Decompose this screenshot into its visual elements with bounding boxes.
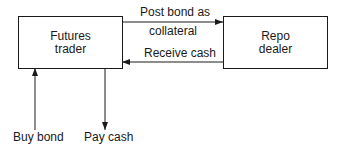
futures-trader-label-line1: Futures [50,30,91,43]
pay-cash-label: Pay cash [84,131,133,144]
repo-dealer-label-line1: Repo [261,30,290,43]
futures-trader-label-line2: trader [55,43,86,56]
buy-bond-label: Buy bond [13,131,64,144]
post-bond-label-line1: Post bond as [140,6,210,19]
repo-dealer-node: Repo dealer [223,16,328,69]
futures-trader-node: Futures trader [18,16,123,69]
post-bond-label-line2: collateral [149,25,197,38]
receive-cash-label: Receive cash [144,47,216,60]
repo-dealer-label-line2: dealer [259,43,292,56]
